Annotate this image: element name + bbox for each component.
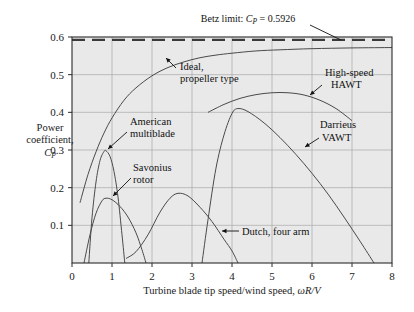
y-tick-label: 0.2	[50, 182, 64, 194]
x-tick-label: 6	[309, 270, 315, 282]
x-tick-label: 7	[349, 270, 355, 282]
x-tick-label: 5	[269, 270, 275, 282]
ideal-propeller-label-line1: Ideal,	[180, 61, 204, 72]
high-speed-hawt-label-line2: HAWT	[331, 79, 362, 90]
dutch-four-arm-label: Dutch, four arm	[242, 226, 309, 237]
high-speed-hawt-label-line1: High-speed	[325, 67, 374, 78]
y-axis-title-line1: Power	[37, 122, 64, 133]
x-tick-label: 0	[69, 270, 75, 282]
american-multiblade-label-line1: American	[130, 116, 172, 127]
x-tick-label: 3	[189, 270, 195, 282]
x-axis-title: Turbine blade tip speed/wind speed, ωR/V	[143, 285, 322, 296]
savonius-rotor-label-line2: rotor	[133, 174, 154, 185]
savonius-rotor-label-line1: Savonius	[133, 162, 172, 173]
y-tick-label: 0.4	[50, 106, 64, 118]
darrieus-vawt-label-line1: Darrieus	[320, 119, 356, 130]
x-axis-tick-labels: 012345678	[69, 270, 395, 282]
x-tick-label: 8	[389, 270, 395, 282]
y-tick-label: 0.1	[50, 219, 64, 231]
figure-container: 012345678 0.10.20.30.40.50.6 Turbine bla…	[0, 0, 414, 312]
ideal-propeller-label-line2: propeller type	[180, 73, 239, 84]
american-multiblade-label-line2: multiblade	[130, 128, 175, 139]
betz-limit-annotation: Betz limit: CP = 0.5926	[201, 13, 295, 26]
y-tick-label: 0.6	[50, 31, 64, 43]
darrieus-vawt-label-line2: VAWT	[322, 132, 352, 143]
y-axis-title-line2: coefficient,	[26, 134, 73, 145]
x-tick-label: 4	[229, 270, 235, 282]
y-tick-label: 0.5	[50, 69, 64, 81]
x-tick-label: 1	[109, 270, 115, 282]
x-tick-label: 2	[149, 270, 155, 282]
wind-turbine-power-coefficient-chart: 012345678 0.10.20.30.40.50.6 Turbine bla…	[0, 0, 414, 312]
